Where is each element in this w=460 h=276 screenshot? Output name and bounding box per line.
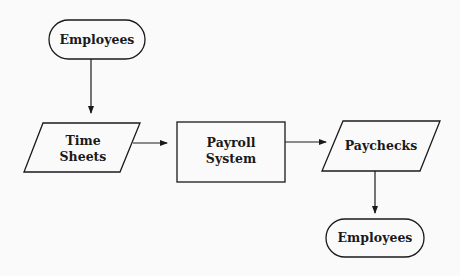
node-payroll-system-label-line1: Payroll: [207, 135, 256, 150]
node-employees-out: Employees: [326, 219, 424, 257]
node-employees-in-label: Employees: [60, 32, 135, 47]
node-employees-out-label: Employees: [338, 230, 413, 245]
node-employees-in: Employees: [49, 20, 145, 59]
node-paychecks: Paychecks: [322, 121, 440, 171]
flowchart-canvas: Employees Time Sheets Payroll System Pay…: [0, 0, 460, 276]
node-time-sheets: Time Sheets: [24, 123, 140, 172]
node-time-sheets-label-line1: Time: [65, 133, 100, 148]
node-payroll-system: Payroll System: [177, 122, 285, 182]
node-payroll-system-label-line2: System: [206, 151, 256, 166]
node-time-sheets-label-line2: Sheets: [60, 149, 107, 164]
node-paychecks-label: Paychecks: [345, 138, 417, 153]
flowchart-svg: Employees Time Sheets Payroll System Pay…: [0, 0, 460, 276]
